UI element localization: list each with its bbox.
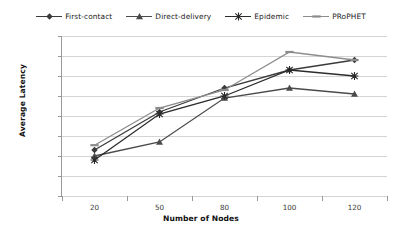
- x-tick-label: 100: [265, 203, 315, 212]
- data-point-marker-dash: [312, 15, 320, 17]
- data-point-marker-cross: [91, 156, 99, 164]
- legend-item-direct-delivery[interactable]: Direct-delivery: [126, 11, 211, 22]
- series-line: [95, 70, 355, 160]
- series-line: [95, 60, 355, 150]
- legend-swatch-dash-icon: [303, 11, 329, 22]
- x-tick-label: 80: [200, 203, 250, 212]
- legend-swatch-triangle-icon: [126, 11, 152, 22]
- x-tick-label: 50: [135, 203, 185, 212]
- data-point-marker-cross: [156, 110, 164, 118]
- series-epidemic: [91, 66, 359, 164]
- data-point-marker-dash: [90, 144, 98, 146]
- plot-area: 05001000150020002500300035004000 2050801…: [62, 36, 387, 196]
- legend-item-first-contact[interactable]: First-contact: [36, 11, 112, 22]
- x-tick-label: 20: [70, 203, 120, 212]
- chart-container: First-contactDirect-deliveryEpidemicPRoP…: [0, 0, 402, 232]
- legend-swatch-diamond-icon: [36, 11, 62, 22]
- data-point-marker-cross: [235, 12, 243, 20]
- legend-item-prophet[interactable]: PRoPHET: [303, 11, 366, 22]
- x-tick-mark: [127, 196, 128, 201]
- data-point-marker-dash: [220, 89, 228, 91]
- x-axis-title: Number of Nodes: [0, 214, 402, 223]
- legend-item-epidemic[interactable]: Epidemic: [225, 11, 289, 22]
- x-tick-mark: [322, 196, 323, 201]
- data-point-marker-diamond: [91, 147, 97, 153]
- legend-swatch-cross-icon: [225, 11, 251, 22]
- y-axis-title: Average Latency: [18, 51, 27, 151]
- legend-label: Direct-delivery: [155, 12, 211, 21]
- legend-label: Epidemic: [254, 12, 289, 21]
- data-point-marker-dash: [285, 51, 293, 53]
- data-point-marker-cross: [351, 72, 359, 80]
- x-tick-mark: [62, 196, 63, 201]
- chart-legend: First-contactDirect-deliveryEpidemicPRoP…: [0, 6, 402, 26]
- x-tick-mark: [257, 196, 258, 201]
- legend-label: First-contact: [65, 12, 112, 21]
- x-tick-label: 120: [330, 203, 380, 212]
- data-point-marker-cross: [221, 92, 229, 100]
- data-point-marker-triangle: [136, 12, 143, 18]
- data-point-marker-diamond: [46, 13, 52, 19]
- x-tick-mark: [192, 196, 193, 201]
- data-point-marker-dash: [155, 107, 163, 109]
- data-point-marker-triangle: [156, 138, 163, 144]
- gridline: [62, 196, 387, 197]
- x-tick-mark: [387, 196, 388, 201]
- series-first-contact: [91, 57, 357, 153]
- data-point-marker-cross: [286, 66, 294, 74]
- data-point-marker-dash: [350, 59, 358, 61]
- legend-label: PRoPHET: [332, 12, 366, 21]
- series-layer: [62, 36, 387, 196]
